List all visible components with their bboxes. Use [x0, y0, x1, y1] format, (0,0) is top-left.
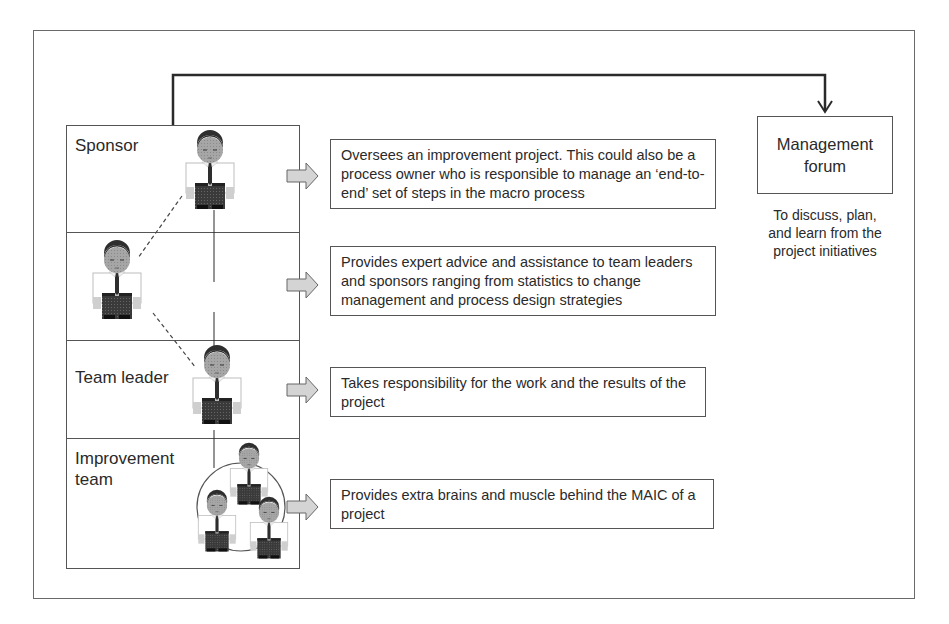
team-member-person-icon — [230, 443, 267, 505]
arrow-right-icon — [287, 163, 318, 189]
management-forum-title-line-1: Management — [777, 135, 873, 153]
coach-person-icon — [93, 240, 141, 319]
arrow-right-icon — [287, 494, 318, 520]
coach-leader-dashed-link — [153, 313, 196, 368]
team-member-person-icon — [198, 490, 235, 552]
sponsor-description: Oversees an improvement project. This co… — [330, 139, 716, 209]
coach-sponsor-dashed-link — [138, 196, 182, 258]
team-leader-description: Takes responsibility for the work and th… — [330, 367, 706, 417]
arrow-right-icon — [287, 272, 318, 298]
sponsor-person-icon — [186, 130, 234, 209]
team-member-person-icon — [250, 497, 287, 559]
improvement-team-description: Provides extra brains and muscle behind … — [330, 479, 714, 529]
arrow-right-icon — [287, 377, 318, 403]
note-line-3: project initiatives — [773, 243, 877, 259]
note-line-2: and learn from the — [768, 225, 882, 241]
coach-description: Provides expert advice and assistance to… — [330, 246, 716, 316]
management-forum-note: To discuss, plan, and learn from the pro… — [752, 206, 898, 260]
note-line-1: To discuss, plan, — [773, 207, 877, 223]
management-forum-title-line-2: forum — [804, 157, 846, 175]
management-forum-box: Management forum — [757, 116, 893, 194]
team-leader-person-icon — [193, 345, 241, 424]
